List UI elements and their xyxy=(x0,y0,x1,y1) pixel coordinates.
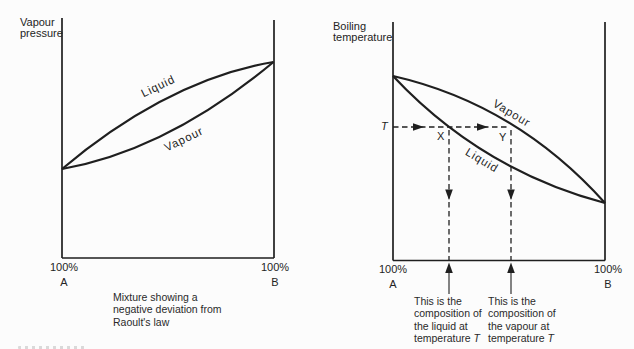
right-y-axis-title: Boilingtemperature xyxy=(333,21,392,42)
right-100pct-b: 100% xyxy=(594,263,622,275)
left-diagram-caption: Mixture showing anegative deviation from… xyxy=(113,291,222,328)
liquid-caption-up-arrow xyxy=(445,263,453,274)
liquid-caption-line2: composition of xyxy=(414,307,482,319)
liquid-composition-caption: This is thecomposition ofthe liquid atte… xyxy=(414,295,482,345)
right-component-b: B xyxy=(604,278,611,290)
left-100pct-b: 100% xyxy=(261,261,289,273)
vapour-caption-line2: composition of xyxy=(488,307,556,319)
left-100pct-a: 100% xyxy=(50,261,78,273)
liquid-caption-line4: temperature xyxy=(414,332,474,344)
vapour-caption-line4: temperature xyxy=(488,332,548,344)
point-y-label: Y xyxy=(499,131,506,143)
left-diagram xyxy=(62,18,274,258)
arrowheads xyxy=(413,123,515,273)
vapour-line-down-arrow xyxy=(507,190,515,201)
temperature-t-label: T xyxy=(381,120,388,132)
right-100pct-a: 100% xyxy=(379,263,407,275)
left-x-axis-label-b: 100%B xyxy=(253,260,297,290)
vapour-caption-line3: the vapour at xyxy=(488,320,549,332)
left-component-b: B xyxy=(271,276,278,288)
tie-line-right-arrow-1 xyxy=(413,123,424,131)
left-y-axis-title: Vapourpressure xyxy=(20,17,63,38)
vapour-composition-caption: This is thecomposition ofthe vapour atte… xyxy=(488,295,556,345)
right-diagram xyxy=(393,22,605,294)
left-caption-line2: negative deviation from xyxy=(113,303,222,315)
textbook-figure-page: Vapourpressure Liquid Vapour 100%A 100%B… xyxy=(0,0,634,349)
vapour-caption-line1: This is the xyxy=(488,295,536,307)
left-component-a: A xyxy=(60,276,67,288)
liquid-caption-line1: This is the xyxy=(414,295,462,307)
left-caption-line1: Mixture showing a xyxy=(113,291,198,303)
vapour-caption-up-arrow xyxy=(507,263,515,274)
right-x-axis-label-b: 100%B xyxy=(586,262,630,292)
vapour-caption-t-symbol: T xyxy=(548,332,554,344)
right-component-a: A xyxy=(389,278,396,290)
left-x-axis-label-a: 100%A xyxy=(42,260,86,290)
liquid-caption-t-symbol: T xyxy=(474,332,480,344)
left-caption-line3: Raoult's law xyxy=(113,316,169,328)
liquid-caption-line3: the liquid at xyxy=(414,320,468,332)
left-y-axis-title-line2: pressure xyxy=(20,27,63,39)
liquid-line-down-arrow xyxy=(445,190,453,201)
right-y-axis-title-line2: temperature xyxy=(333,31,392,43)
right-x-axis-label-a: 100%A xyxy=(371,262,415,292)
tie-line-right-arrow-2 xyxy=(477,123,488,131)
point-x-label: X xyxy=(437,130,444,142)
